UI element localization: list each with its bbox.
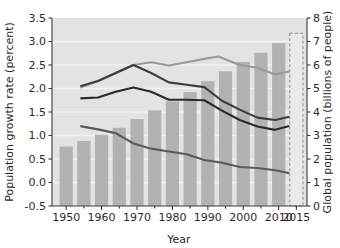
bar [272,43,285,206]
y-tick-label: 0.5 [29,153,47,166]
y2-tick-label: 8 [313,12,320,25]
x-tick-label: 2015 [282,211,310,224]
bar [219,71,232,206]
bar [237,62,250,206]
y-tick-label: 1.0 [29,129,47,142]
bar [130,119,143,206]
y-tick-label: 3.5 [29,12,47,25]
right-axis-ticks: 012345678 [307,12,320,213]
y2-tick-label: 0 [313,200,320,213]
x-tick-label: 1960 [88,211,116,224]
y2-tick-label: 3 [313,129,320,142]
y2-tick-label: 2 [313,153,320,166]
bar [148,110,161,206]
y2-tick-label: 5 [313,82,320,95]
population-growth-chart: -0.50.00.51.01.52.02.53.03.5 012345678 1… [0,0,340,248]
x-tick-label: 2000 [229,211,257,224]
x-tick-label: 1980 [158,211,186,224]
secondary-y-axis-label: Global population (billions of people) [321,11,334,214]
y-tick-label: 0.0 [29,176,47,189]
bar [254,53,267,206]
bar [95,135,108,206]
x-tick-label: 1990 [194,211,222,224]
y-tick-label: 3.0 [29,35,47,48]
chart-canvas: -0.50.00.51.01.52.02.53.03.5 012345678 1… [0,0,340,248]
y2-tick-label: 1 [313,176,320,189]
x-axis-label: Year [166,233,191,246]
y-tick-label: 2.0 [29,82,47,95]
x-tick-label: 1950 [52,211,80,224]
bar [113,128,126,206]
bar-projected [290,33,303,206]
y-axis-label: Population growth rate (percent) [3,22,16,202]
y-tick-label: 2.5 [29,59,47,72]
y2-tick-label: 6 [313,59,320,72]
bar [60,147,73,206]
bar [77,141,90,206]
x-tick-label: 1970 [123,211,151,224]
y2-tick-label: 4 [313,106,320,119]
y2-tick-label: 7 [313,35,320,48]
bar [184,92,197,206]
y-tick-label: -0.5 [25,200,46,213]
y-tick-label: 1.5 [29,106,47,119]
